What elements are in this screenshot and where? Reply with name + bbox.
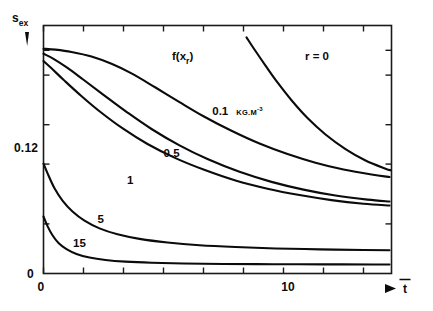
annotation-f-of-xr-main: f(x xyxy=(172,50,187,62)
curve-label-0.5: 0.5 xyxy=(164,147,181,159)
chart-figure: sex 0.12 0 0 10 t f(xr) r = 0 0.1KG.M-30… xyxy=(0,0,433,311)
curve-label-5: 5 xyxy=(97,213,104,225)
curve-label-0.1: 0.1 xyxy=(212,105,229,117)
curve-label-group: 0.1KG.M-30.51515 xyxy=(73,105,263,250)
up-arrow-icon xyxy=(25,32,29,46)
curve-group xyxy=(44,37,391,264)
plot-frame xyxy=(44,26,392,274)
x-axis-label: t xyxy=(403,282,407,296)
curve-1 xyxy=(44,61,390,206)
curve-label-1: 1 xyxy=(127,174,134,186)
right-arrow-icon xyxy=(385,284,396,293)
annotation-f-of-xr-tail: ) xyxy=(189,50,193,62)
curve-unit-0.1: KG.M-3 xyxy=(236,106,263,117)
curve-label-15: 15 xyxy=(73,237,86,249)
curve-15 xyxy=(44,217,390,265)
annotation-f-of-xr: f(xr) xyxy=(172,50,193,66)
x-tick-label-0: 0 xyxy=(38,280,45,294)
y-axis-label-sub: ex xyxy=(19,18,29,28)
x-axis-ticks xyxy=(44,26,364,274)
y-axis-ticks xyxy=(44,50,392,224)
curve-unit-exponent-0.1: -3 xyxy=(257,106,263,112)
curve-5 xyxy=(44,164,390,251)
y-tick-label-012: 0.12 xyxy=(14,141,38,155)
chart-plot-svg: sex 0.12 0 0 10 t f(xr) r = 0 0.1KG.M-30… xyxy=(0,0,433,311)
x-tick-label-10: 10 xyxy=(281,280,295,294)
curve-0.5 xyxy=(44,54,390,202)
y-axis-label: sex xyxy=(12,11,28,28)
y-tick-label-0: 0 xyxy=(27,267,34,281)
annotation-r-equals-zero: r = 0 xyxy=(305,50,329,62)
